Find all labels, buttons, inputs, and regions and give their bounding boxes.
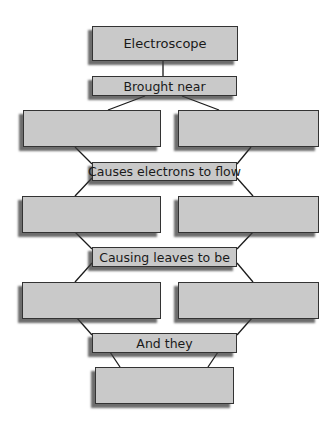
connector-causing-leaves: Causing leaves to be xyxy=(92,247,237,267)
connector-label: Brought near xyxy=(123,79,205,94)
title-box-label: Electroscope xyxy=(123,36,206,51)
blank-box-bottom[interactable] xyxy=(95,367,234,404)
blank-box-row3-right[interactable] xyxy=(178,282,319,319)
connector-label: And they xyxy=(136,336,192,351)
blank-box-row3-left[interactable] xyxy=(22,282,161,319)
blank-box-row1-right[interactable] xyxy=(178,110,319,147)
blank-box-row2-right[interactable] xyxy=(178,196,319,233)
connector-label: Causing leaves to be xyxy=(99,250,230,265)
connector-label: Causes electrons to flow xyxy=(88,164,241,179)
title-box-electroscope: Electroscope xyxy=(92,26,238,61)
connector-causes-electrons: Causes electrons to flow xyxy=(92,162,237,181)
blank-box-row2-left[interactable] xyxy=(22,196,161,233)
connector-brought-near: Brought near xyxy=(92,76,237,96)
connector-and-they: And they xyxy=(92,333,237,353)
blank-box-row1-left[interactable] xyxy=(23,110,161,147)
